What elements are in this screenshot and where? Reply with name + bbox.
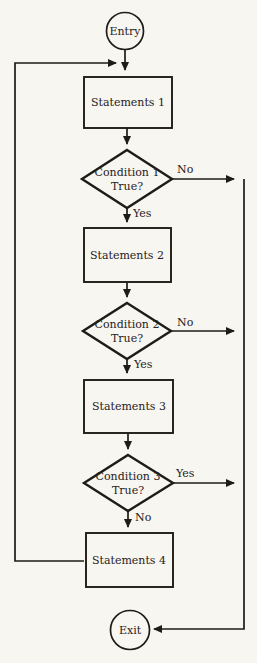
condition3-yes-label: Yes xyxy=(175,467,195,480)
condition1-no-label: No xyxy=(177,163,194,176)
condition1-question: True? xyxy=(111,180,143,193)
statements2-label: Statements 2 xyxy=(90,249,164,262)
condition1-yes-label: Yes xyxy=(132,207,152,220)
statements4-label: Statements 4 xyxy=(92,554,166,567)
condition2-yes-label: Yes xyxy=(133,358,153,371)
condition2-no-label: No xyxy=(177,316,194,329)
condition2-title: Condition 2 xyxy=(95,318,160,331)
statements1-label: Statements 1 xyxy=(91,96,165,109)
flowchart-page: Entry Statements 1 Condition 1 True? No … xyxy=(0,0,257,663)
statements3-label: Statements 3 xyxy=(92,400,166,413)
entry-label: Entry xyxy=(109,25,141,38)
condition2-question: True? xyxy=(111,332,143,345)
condition3-no-label: No xyxy=(135,511,152,524)
condition1-title: Condition 1 xyxy=(95,166,160,179)
exit-label: Exit xyxy=(119,624,142,637)
condition3-question: True? xyxy=(112,484,144,497)
flowchart-diagram: Entry Statements 1 Condition 1 True? No … xyxy=(0,0,257,663)
condition3-title: Condition 3 xyxy=(96,470,161,483)
